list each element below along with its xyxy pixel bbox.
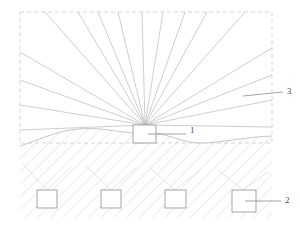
ray-5 [45, 12, 145, 125]
ray-17 [145, 125, 272, 127]
callout-label-2: 2 [285, 196, 290, 205]
ray-3 [20, 80, 145, 125]
ray-7 [98, 12, 145, 125]
buried-unit-2 [101, 190, 121, 208]
technical-diagram [0, 0, 300, 228]
ray-6 [78, 12, 145, 125]
buried-unit-3 [165, 190, 186, 208]
ray-2 [20, 105, 145, 125]
ray-fan [20, 12, 272, 130]
ray-9 [142, 12, 145, 125]
callout-label-1: 1 [190, 126, 195, 135]
ray-11 [145, 12, 185, 125]
ray-15 [145, 75, 272, 125]
figure-canvas: 1 2 3 [0, 0, 300, 228]
callout-label-3: 3 [287, 87, 292, 96]
buried-unit-1 [37, 190, 57, 208]
ray-8 [118, 12, 145, 125]
leader-3 [243, 92, 283, 96]
ray-4 [20, 52, 145, 125]
ray-14 [145, 48, 272, 125]
